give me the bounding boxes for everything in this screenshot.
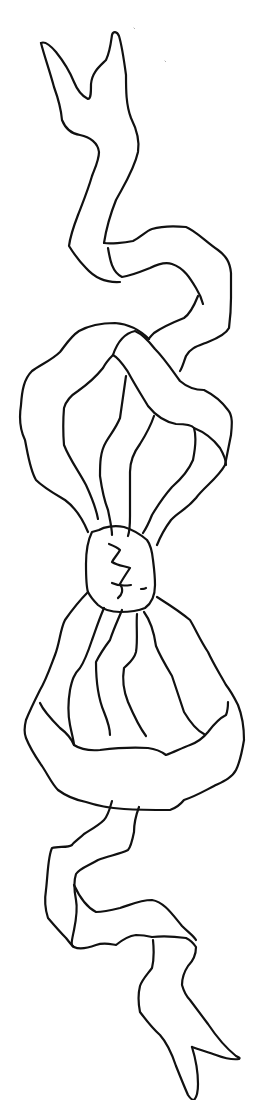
upper-loop bbox=[20, 323, 232, 545]
paper-specks bbox=[134, 28, 166, 62]
bottom-streamer bbox=[45, 801, 239, 1100]
ribbon-bow-drawing bbox=[0, 0, 259, 1100]
upper-right-ribbon bbox=[149, 296, 231, 371]
knot bbox=[86, 526, 155, 612]
ribbon-bow-illustration bbox=[0, 0, 259, 1100]
lower-loop bbox=[25, 592, 245, 810]
top-streamer bbox=[41, 32, 231, 304]
